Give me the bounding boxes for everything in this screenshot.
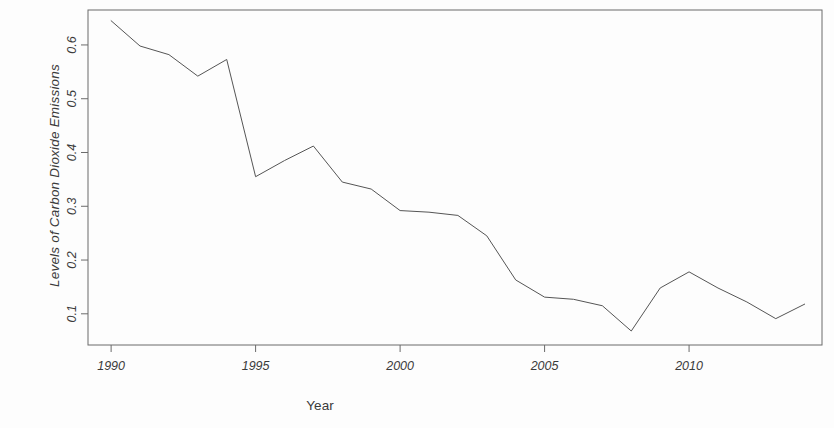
plot-border	[88, 10, 822, 345]
y-tick-label: 0.2	[65, 251, 79, 268]
x-tick-label: 2010	[674, 359, 703, 373]
series-line	[111, 21, 805, 331]
y-tick-label: 0.5	[65, 90, 79, 107]
x-axis-ticks: 19901995200020052010	[97, 345, 703, 373]
y-axis-title: Levels of Carbon Dioxide Emissions	[47, 26, 62, 326]
chart-figure: 0.10.20.30.40.50.6 19901995200020052010 …	[0, 0, 834, 428]
plot-frame	[88, 10, 822, 345]
x-tick-label: 1995	[242, 359, 270, 373]
y-tick-label: 0.6	[65, 36, 79, 53]
x-axis-title: Year	[0, 398, 640, 413]
data-series-line	[111, 21, 805, 331]
y-axis-ticks: 0.10.20.30.40.50.6	[65, 36, 88, 322]
x-tick-label: 2000	[385, 359, 414, 373]
line-chart-canvas: 0.10.20.30.40.50.6 19901995200020052010	[0, 0, 834, 428]
x-tick-label: 1990	[97, 359, 125, 373]
y-tick-label: 0.4	[65, 144, 79, 161]
y-tick-label: 0.1	[65, 305, 79, 322]
x-tick-label: 2005	[530, 359, 559, 373]
y-tick-label: 0.3	[65, 198, 79, 215]
